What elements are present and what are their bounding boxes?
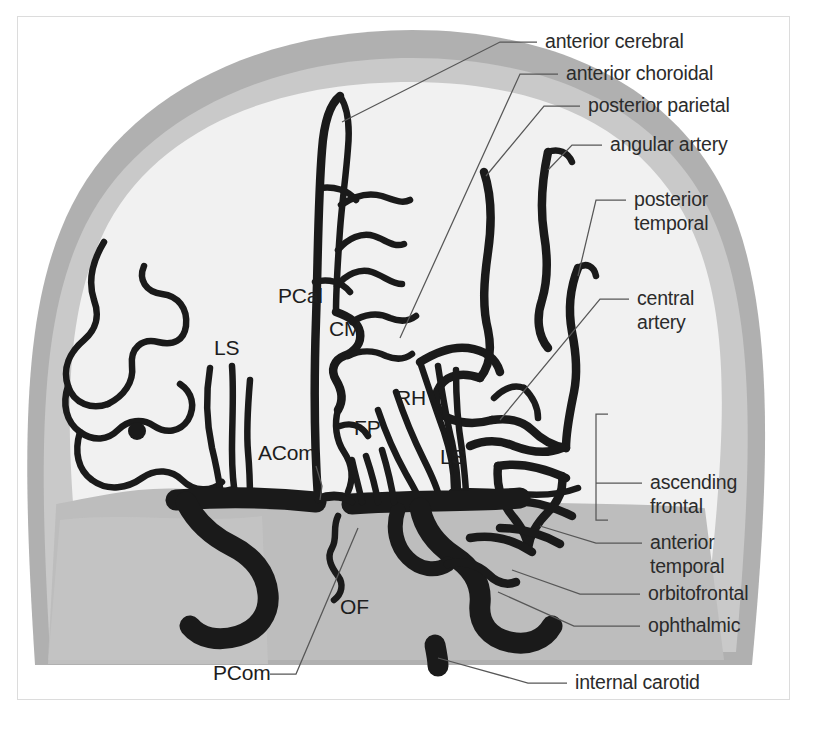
label-orbitofrontal: orbitofrontal [648, 582, 748, 604]
label-anterior-temporal-line2: temporal [650, 555, 724, 577]
label-rh: RH [396, 386, 426, 409]
label-pcom: PCom [213, 661, 271, 684]
label-anterior-temporal-line1: anterior [650, 531, 715, 553]
label-of: OF [340, 595, 369, 618]
label-ascending-frontal-line2: frontal [650, 495, 703, 517]
vessel-left-ls-branch-c [247, 380, 250, 500]
vessel-left-node [128, 422, 146, 440]
angiogram-illustration: anterior cerebral anterior choroidal pos… [0, 0, 814, 729]
label-anterior-choroidal: anterior choroidal [566, 62, 713, 84]
label-central-artery-line2: artery [637, 311, 686, 333]
label-anterior-cerebral: anterior cerebral [545, 30, 684, 52]
label-acom: ACom [258, 441, 316, 464]
label-posterior-parietal: posterior parietal [588, 94, 730, 116]
label-posterior-temporal-line2: temporal [634, 212, 708, 234]
vessel-left-ls-branch-b [232, 366, 236, 500]
label-posterior-temporal-line1: posterior [634, 188, 709, 210]
label-central-artery-line1: central [637, 287, 694, 309]
label-ascending-frontal-line1: ascending [650, 471, 737, 493]
label-ophthalmic: ophthalmic [648, 614, 741, 636]
label-angular-artery: angular artery [610, 133, 728, 155]
label-cm: CM [329, 317, 361, 340]
label-ls-left: LS [214, 336, 239, 359]
label-pcal: PCal [278, 284, 323, 307]
angiogram-figure: anterior cerebral anterior choroidal pos… [0, 0, 814, 729]
vessel-carotid-stub [435, 645, 438, 666]
label-ls-right: LS [440, 445, 465, 468]
label-fp: FP [354, 416, 380, 439]
label-internal-carotid: internal carotid [575, 671, 700, 693]
